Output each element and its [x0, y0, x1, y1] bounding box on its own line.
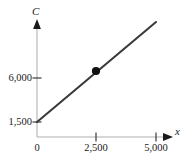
x-axis-arrowhead [163, 133, 173, 141]
x-tick-label-2500: 2,500 [84, 143, 108, 154]
x-tick-label-0: 0 [34, 143, 39, 154]
cost-function-chart: C x 6,000 1,500 0 2,500 5,000 [0, 0, 187, 164]
y-tick-label-6000: 6,000 [0, 73, 32, 84]
y-tick-label-1500: 1,500 [0, 117, 32, 128]
x-tick-label-5000: 5,000 [144, 143, 168, 154]
x-axis-label-x: x [175, 126, 180, 137]
data-point-marker [92, 67, 100, 75]
y-axis-label-c: C [32, 6, 39, 17]
y-axis-arrowhead [33, 19, 41, 29]
